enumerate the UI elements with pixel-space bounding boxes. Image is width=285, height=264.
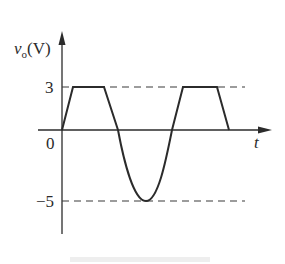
y-axis-label: vo(V) <box>14 39 51 60</box>
clipped-waveform <box>62 87 229 201</box>
tick-label-minus5: −5 <box>36 192 54 211</box>
tick-label-0: 0 <box>46 134 55 153</box>
x-axis-label: t <box>254 133 260 152</box>
waveform-diagram: vo(V) 3 0 −5 t <box>0 0 285 264</box>
tick-label-3: 3 <box>45 78 54 97</box>
x-axis-arrow-icon <box>258 127 272 134</box>
y-axis-arrow-icon <box>59 31 66 45</box>
faded-caption <box>70 257 210 262</box>
